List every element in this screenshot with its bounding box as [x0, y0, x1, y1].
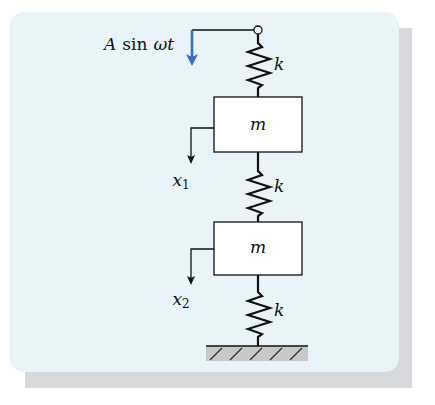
spring-mass-diagram: Asinωt k m x1 k m x2 k	[0, 0, 435, 405]
spring-3: k	[248, 275, 284, 346]
pivot-circle	[254, 26, 262, 34]
ground-support	[206, 346, 308, 361]
mass-1-label: m	[250, 114, 266, 134]
spring-3-label: k	[274, 300, 284, 320]
spring-1: k	[248, 34, 284, 97]
x1-label: x1	[172, 170, 189, 192]
mass-2: m x2	[172, 222, 302, 311]
spring-2-label: k	[274, 176, 284, 196]
spring-2: k	[248, 152, 284, 222]
x2-label: x2	[172, 289, 189, 311]
forcing-label: Asinωt	[102, 34, 174, 54]
mass-2-label: m	[250, 237, 266, 257]
forcing-input: Asinωt	[102, 26, 262, 66]
spring-1-label: k	[274, 54, 284, 74]
